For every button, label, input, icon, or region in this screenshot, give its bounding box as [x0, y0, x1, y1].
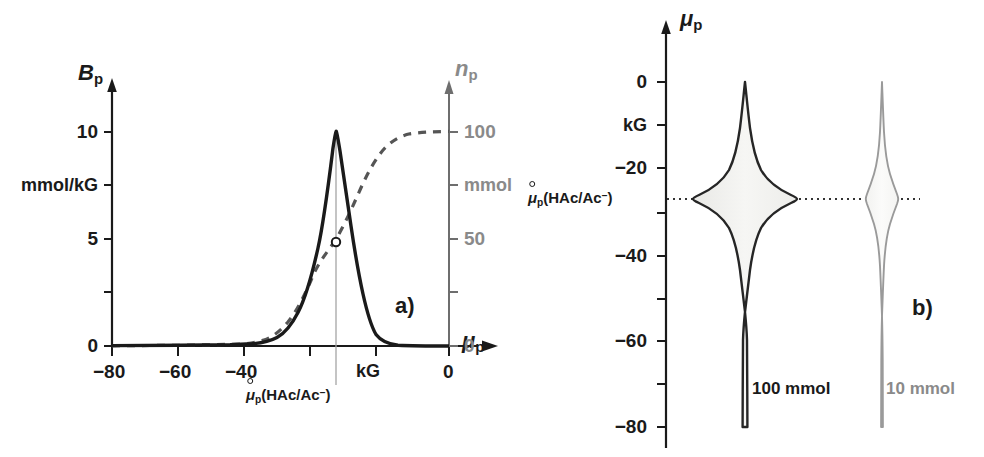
panel-b-y-axis: [657, 20, 671, 448]
violin-100mmol: [693, 82, 797, 427]
series-label-100mmol: 100 mmol: [752, 380, 830, 397]
left-axis-symbol-letter: B: [78, 60, 94, 85]
right-y-axis: [445, 80, 459, 346]
ref-b-mu: μ: [528, 189, 537, 206]
left-tick-10: 10: [58, 122, 98, 141]
panel-a: Bp 10 mmol/kG 5 0 −80 −60 −40 kG 0 μp np…: [0, 0, 500, 457]
ring-accent-icon: [247, 378, 254, 385]
panel-b-tick-minus80: −80: [585, 417, 647, 436]
figure-root: Bp 10 mmol/kG 5 0 −80 −60 −40 kG 0 μp np…: [0, 0, 984, 457]
panel-b: μp 0 kG −20 −40 −60 −80 μp(HAc/Ac−) 100 …: [500, 0, 984, 457]
left-y-axis: [104, 78, 117, 346]
ref-a-mu: μ: [246, 386, 255, 403]
panel-tag-b: b): [912, 297, 933, 319]
panel-b-tick-minus60: −60: [585, 331, 647, 350]
ref-b-close: ): [608, 189, 613, 206]
panel-b-axis-symbol-sub: p: [693, 16, 702, 33]
x-tick-minus80: −80: [93, 362, 125, 381]
right-tick-100: 100: [464, 122, 496, 141]
panel-b-tick-minus20: −20: [585, 158, 647, 177]
x-axis-symbol-sub: p: [475, 338, 484, 355]
x-tick-0: 0: [443, 362, 454, 381]
ref-a-paren: (HAc/Ac: [261, 386, 319, 403]
left-tick-5: 5: [58, 229, 98, 248]
x-tick-minus60: −60: [159, 362, 191, 381]
midpoint-marker: [332, 238, 340, 246]
ring-accent-icon-b: [529, 181, 536, 188]
panel-b-axis-symbol-letter: μ: [680, 6, 693, 31]
x-axis: [112, 341, 498, 357]
right-axis-symbol-sub: p: [468, 66, 477, 83]
left-axis-symbol: Bp: [78, 62, 103, 87]
right-tick-50: 50: [464, 229, 485, 248]
panel-tag-a: a): [395, 295, 415, 317]
panel-b-tick-0: 0: [595, 72, 647, 91]
violin-10mmol: [866, 82, 898, 427]
series-label-10mmol: 10 mmol: [886, 380, 955, 397]
left-tick-0: 0: [58, 336, 98, 355]
ref-b-paren: (HAc/Ac: [543, 189, 601, 206]
left-axis-unit: mmol/kG: [0, 176, 98, 194]
right-axis-symbol: np: [455, 58, 478, 83]
right-axis-symbol-letter: n: [455, 56, 468, 81]
ref-a-close: ): [326, 386, 331, 403]
x-axis-unit: kG: [356, 362, 380, 380]
panel-b-tick-minus40: −40: [585, 246, 647, 265]
panel-b-unit-kG: kG: [595, 116, 647, 134]
right-tick-0: 0: [464, 336, 475, 355]
reference-label-a: μp(HAc/Ac−): [246, 387, 331, 405]
reference-label-b: μp(HAc/Ac−): [528, 190, 613, 208]
left-axis-symbol-sub: p: [94, 70, 103, 87]
panel-b-axis-symbol: μp: [680, 8, 702, 33]
